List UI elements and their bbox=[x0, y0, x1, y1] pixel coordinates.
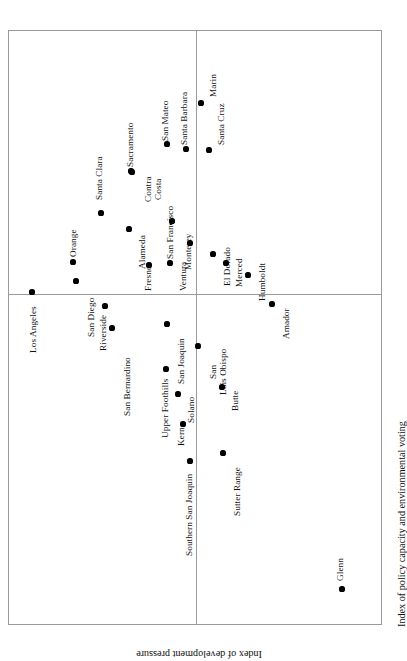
point-label: Santa Barbara bbox=[180, 92, 190, 145]
point-marker bbox=[210, 251, 215, 256]
point-marker bbox=[219, 384, 224, 389]
quadrant-divider-horizontal bbox=[9, 294, 381, 295]
point-marker bbox=[109, 325, 114, 330]
point-label: Kern bbox=[177, 427, 187, 446]
point-label: Ventura bbox=[179, 262, 189, 291]
point-label: Solano bbox=[187, 397, 197, 423]
point-marker bbox=[223, 260, 228, 265]
point-label: Glenn bbox=[336, 558, 346, 581]
point-label: San Mateo bbox=[161, 101, 171, 141]
point-label: Humboldt bbox=[258, 263, 268, 301]
point-marker bbox=[198, 100, 203, 105]
point-marker bbox=[339, 586, 344, 591]
point-label: Southern San Joaquin bbox=[185, 474, 195, 556]
point-label: Merced bbox=[235, 258, 245, 287]
point-marker bbox=[102, 303, 107, 308]
point-label: San Joaquin bbox=[177, 338, 187, 384]
point-marker bbox=[73, 278, 78, 283]
point-label: Riverside bbox=[99, 315, 109, 351]
point-marker bbox=[220, 450, 225, 455]
point-label: Santa Clara bbox=[95, 156, 105, 200]
point-marker bbox=[129, 169, 134, 174]
point-marker bbox=[29, 289, 34, 294]
point-label: Upper Foothills bbox=[161, 379, 171, 438]
y-axis-title: Index of development pressure bbox=[136, 649, 262, 660]
point-marker bbox=[245, 272, 250, 277]
x-axis-title: Index of policy capacity and environment… bbox=[396, 421, 407, 627]
point-marker bbox=[167, 260, 172, 265]
point-marker bbox=[175, 391, 180, 396]
point-label: Butte bbox=[231, 391, 241, 411]
point-marker bbox=[164, 321, 169, 326]
point-label: Amador bbox=[282, 308, 292, 339]
point-marker bbox=[180, 421, 185, 426]
point-label: Contra Costa bbox=[144, 176, 163, 202]
point-marker bbox=[126, 226, 131, 231]
point-label: Orange bbox=[69, 229, 79, 257]
point-label: San Francisco bbox=[166, 206, 176, 259]
point-marker bbox=[206, 147, 211, 152]
point-marker bbox=[269, 301, 274, 306]
point-label: Santa Cruz bbox=[217, 103, 227, 145]
point-label: Marin bbox=[209, 74, 219, 97]
point-marker bbox=[187, 458, 192, 463]
point-label: El Dorado bbox=[223, 247, 233, 286]
plot-frame: Los AngelesOrangeSan DiegoRiversideSan B… bbox=[8, 30, 382, 625]
point-label: San Diego bbox=[87, 298, 97, 337]
point-marker bbox=[195, 343, 200, 348]
point-label: Sacramento bbox=[126, 123, 136, 167]
point-marker bbox=[98, 210, 103, 215]
point-marker bbox=[183, 146, 188, 151]
point-label: Los Angeles bbox=[29, 306, 39, 353]
point-marker bbox=[164, 141, 169, 146]
point-label: Sutter Range bbox=[233, 467, 243, 516]
point-label: San Bernardino bbox=[123, 357, 133, 416]
point-marker bbox=[163, 366, 168, 371]
point-label: Fresno bbox=[144, 265, 154, 291]
quadrant-divider-vertical bbox=[196, 31, 197, 624]
point-marker bbox=[70, 259, 75, 264]
